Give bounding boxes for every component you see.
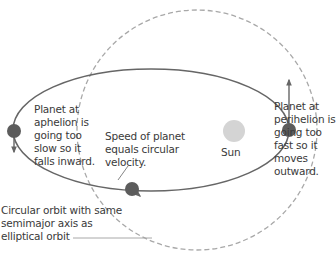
perihelion-label: Planet at perihelion is going too fast s… [274, 100, 336, 178]
planet-aphelion-icon [7, 124, 21, 138]
circular-orbit-label: Circular orbit with same semimajor axis … [1, 204, 122, 243]
planet-intersection-icon [125, 182, 139, 196]
sun-icon [223, 120, 245, 142]
sun-label: Sun [221, 146, 240, 159]
aphelion-label: Planet at aphelion is going too slow so … [34, 103, 95, 168]
circular-speed-label: Speed of planet equals circular velocity… [105, 130, 185, 169]
